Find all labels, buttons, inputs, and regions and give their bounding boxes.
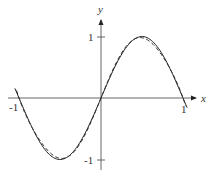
x-axis-label: x bbox=[200, 92, 206, 104]
y-axis-label: y bbox=[97, 3, 103, 15]
chart-canvas: y x 1 -1 -1 1 bbox=[0, 0, 213, 178]
x-tick-label-neg: -1 bbox=[9, 101, 18, 113]
y-tick-label-pos: 1 bbox=[88, 31, 94, 43]
y-tick-label-neg: -1 bbox=[84, 154, 93, 166]
